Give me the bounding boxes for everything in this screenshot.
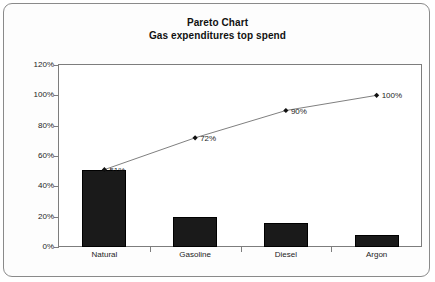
cumulative-marker-argon bbox=[374, 93, 379, 98]
x-axis-labels: NaturalGasolineDieselArgon bbox=[59, 250, 422, 268]
cumulative-label-diesel: 90% bbox=[291, 106, 307, 115]
cumulative-marker-gasoline bbox=[193, 135, 198, 140]
y-axis-tick-label: 20% bbox=[8, 212, 54, 221]
cumulative-label-natural: 51% bbox=[109, 165, 125, 174]
page-title: Pareto Chart bbox=[4, 16, 430, 29]
x-axis-label-natural: Natural bbox=[91, 250, 117, 259]
y-axis-tick-mark bbox=[54, 247, 59, 248]
cumulative-marker-diesel bbox=[283, 108, 288, 113]
y-axis-tick-label: 120% bbox=[8, 60, 54, 69]
y-axis-tick-label: 0% bbox=[8, 242, 54, 251]
plot-area: 51%72%90%100% bbox=[59, 65, 422, 247]
x-axis-label-diesel: Diesel bbox=[275, 250, 297, 259]
pareto-chart-card: Pareto Chart Gas expenditures top spend … bbox=[3, 3, 430, 277]
cumulative-marker-natural bbox=[102, 167, 107, 172]
y-axis-tick-label: 100% bbox=[8, 90, 54, 99]
cumulative-line-svg bbox=[59, 65, 422, 247]
y-axis-tick-label: 60% bbox=[8, 151, 54, 160]
cumulative-label-gasoline: 72% bbox=[200, 133, 216, 142]
y-axis-tick-label: 80% bbox=[8, 121, 54, 130]
cumulative-label-argon: 100% bbox=[382, 91, 402, 100]
chart-title-block: Pareto Chart Gas expenditures top spend bbox=[4, 16, 430, 42]
cumulative-polyline bbox=[104, 95, 376, 169]
chart-subtitle: Gas expenditures top spend bbox=[4, 29, 430, 42]
x-axis-label-argon: Argon bbox=[366, 250, 387, 259]
x-axis-label-gasoline: Gasoline bbox=[179, 250, 211, 259]
y-axis-labels: 0%20%40%60%80%100%120% bbox=[4, 65, 54, 247]
y-axis-tick-label: 40% bbox=[8, 181, 54, 190]
